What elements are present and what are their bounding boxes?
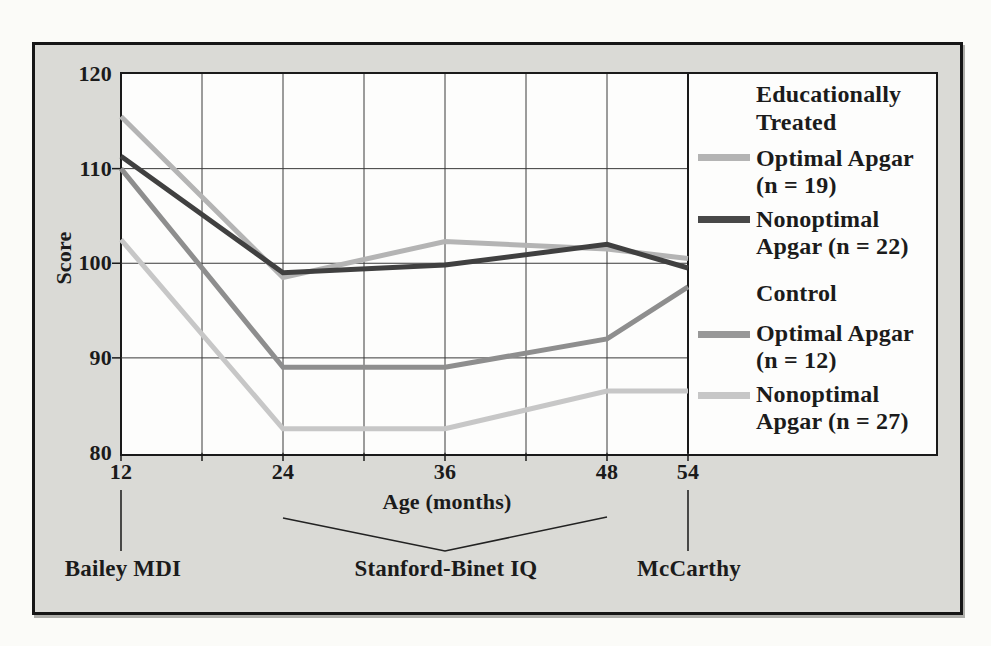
annotation-bailey-mdi: Bailey MDI xyxy=(65,556,181,582)
annotation-mccarthy: McCarthy xyxy=(637,556,741,582)
legend-swatch-et-nonoptimal-apgar xyxy=(698,216,750,223)
y-tick-label: 120 xyxy=(42,61,112,87)
x-tick-label: 24 xyxy=(272,459,294,485)
x-axis-title: Age (months) xyxy=(383,489,512,515)
legend-swatch-control-optimal-apgar xyxy=(698,331,750,338)
x-tick-label: 36 xyxy=(434,459,456,485)
y-tick-label: 110 xyxy=(42,156,112,182)
x-tick-label: 12 xyxy=(110,459,132,485)
figure-page: 120 110 100 90 80 12 24 36 48 54 Age (mo… xyxy=(0,0,991,646)
legend-label-control-optimal-apgar: Optimal Apgar (n = 12) xyxy=(756,320,941,374)
legend-swatch-control-nonoptimal-apgar xyxy=(698,392,750,399)
x-tick-label: 48 xyxy=(596,459,618,485)
y-tick-label: 90 xyxy=(42,345,112,371)
y-axis-title: Score xyxy=(51,198,77,318)
legend-label-control-nonoptimal-apgar: Nonoptimal Apgar (n = 27) xyxy=(756,381,941,435)
annotation-stanford-binet-iq: Stanford-Binet IQ xyxy=(355,556,538,582)
x-tick-label: 54 xyxy=(677,459,699,485)
legend-group-header-educationally-treated: Educationally Treated xyxy=(756,80,946,136)
legend-label-et-optimal-apgar: Optimal Apgar (n = 19) xyxy=(756,145,941,199)
legend-label-et-nonoptimal-apgar: Nonoptimal Apgar (n = 22) xyxy=(756,206,941,260)
legend-group-header-control: Control xyxy=(756,279,946,307)
legend-swatch-et-optimal-apgar xyxy=(698,154,750,161)
y-tick-label: 80 xyxy=(42,440,112,466)
